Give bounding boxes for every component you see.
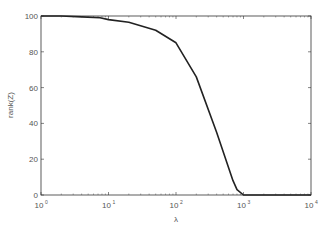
x-tick-label: 10	[237, 201, 246, 210]
x-tick-exponent: 1	[113, 199, 116, 205]
x-tick-exponent: 0	[45, 199, 48, 205]
x-axis: 100101102103104	[35, 16, 318, 210]
x-tick-label: 10	[305, 201, 314, 210]
y-tick-label: 20	[29, 155, 38, 164]
y-axis-label: rank(Z)	[6, 92, 15, 118]
x-tick-label: 10	[170, 201, 179, 210]
x-tick-exponent: 2	[180, 199, 183, 205]
y-tick-label: 80	[29, 48, 38, 57]
y-tick-label: 60	[29, 84, 38, 93]
x-axis-label: λ	[174, 215, 178, 224]
y-axis: 020406080100	[25, 12, 311, 200]
line-chart: 100101102103104 020406080100 λ rank(Z)	[0, 0, 330, 229]
y-tick-label: 0	[34, 191, 39, 200]
y-tick-label: 100	[25, 12, 39, 21]
data-line	[41, 16, 311, 195]
y-tick-label: 40	[29, 119, 38, 128]
x-tick-exponent: 4	[315, 199, 318, 205]
x-tick-label: 10	[102, 201, 111, 210]
plot-area	[41, 16, 311, 195]
x-tick-exponent: 3	[248, 199, 251, 205]
x-tick-label: 10	[35, 201, 44, 210]
